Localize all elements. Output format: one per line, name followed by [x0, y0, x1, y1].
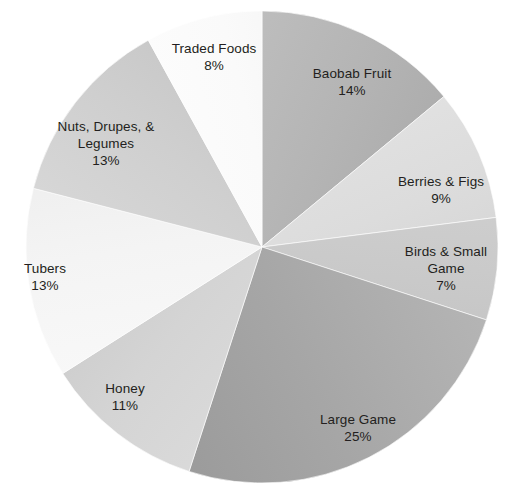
pie-chart: Baobab Fruit 14% Berries & Figs 9% Birds… — [0, 0, 512, 494]
pie-chart-canvas — [0, 0, 512, 494]
pie-slice-group — [26, 11, 498, 483]
